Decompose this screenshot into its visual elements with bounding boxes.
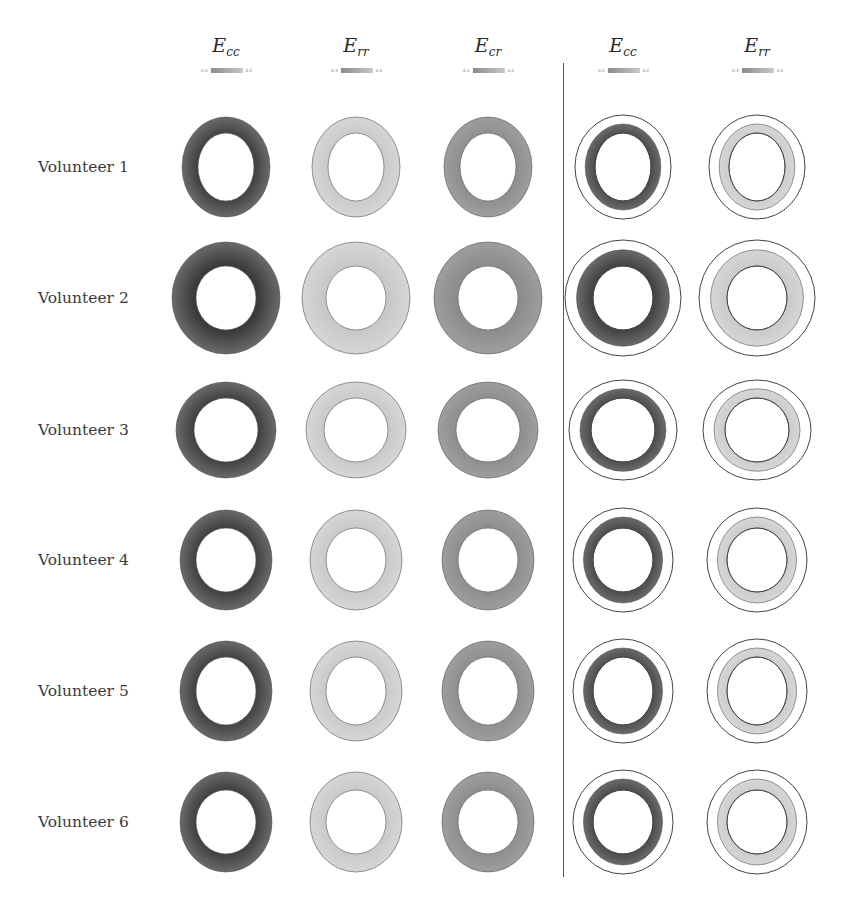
strain-map-err_mod-volunteer-5 [699, 629, 815, 753]
row-label-volunteer-2: Volunteer 2 [38, 289, 129, 307]
strain-map-err_mod-volunteer-3 [695, 370, 819, 490]
strain-map-err_hd-volunteer-6 [298, 760, 414, 884]
strain-map-ecc_hd-volunteer-2 [160, 230, 292, 366]
strain-map-ecc_mod-volunteer-6 [565, 760, 681, 884]
strain-map-err_hd-volunteer-1 [300, 105, 412, 229]
colorbar-min: -0.4 [330, 68, 338, 73]
column-header-ecc_mod: Ecc [609, 34, 636, 59]
strain-map-ecc_mod-volunteer-1 [567, 105, 679, 229]
colorbar-ecr_hd: -0.20.2 [462, 68, 514, 73]
colorbar-max: 0.4 [376, 68, 382, 73]
colorbar-min: -0.2 [462, 68, 470, 73]
colorbar-gradient [341, 68, 373, 73]
colorbar-min: -0.2 [200, 68, 208, 73]
column-header-ecr_hd: Ecr [475, 34, 501, 59]
row-label-volunteer-3: Volunteer 3 [38, 421, 129, 439]
strain-map-err_mod-volunteer-4 [699, 498, 815, 622]
colorbar-gradient [211, 68, 243, 73]
strain-map-err_hd-volunteer-3 [294, 370, 418, 490]
colorbar-err_mod: -0.40.4 [731, 68, 783, 73]
strain-map-err_mod-volunteer-1 [701, 105, 813, 229]
colorbar-max: 0.4 [777, 68, 783, 73]
strain-map-ecc_hd-volunteer-5 [168, 629, 284, 753]
strain-map-ecc_mod-volunteer-4 [565, 498, 681, 622]
row-label-volunteer-4: Volunteer 4 [38, 551, 129, 569]
colorbar-ecc_mod: -0.20.2 [597, 68, 649, 73]
strain-map-ecr_hd-volunteer-4 [430, 498, 546, 622]
colorbar-gradient [608, 68, 640, 73]
colorbar-max: 0.2 [643, 68, 649, 73]
colorbar-gradient [742, 68, 774, 73]
row-label-volunteer-1: Volunteer 1 [38, 158, 129, 176]
strain-map-ecr_hd-volunteer-6 [430, 760, 546, 884]
column-header-err_hd: Err [343, 34, 368, 59]
strain-map-err_hd-volunteer-5 [298, 629, 414, 753]
colorbar-min: -0.2 [597, 68, 605, 73]
strain-map-err_mod-volunteer-6 [699, 760, 815, 884]
colorbar-gradient [473, 68, 505, 73]
strain-map-err_mod-volunteer-2 [691, 230, 823, 366]
colorbar-ecc_hd: -0.20.2 [200, 68, 252, 73]
column-header-err_mod: Err [744, 34, 769, 59]
strain-map-err_hd-volunteer-4 [298, 498, 414, 622]
strain-map-ecc_hd-volunteer-6 [168, 760, 284, 884]
colorbar-min: -0.4 [731, 68, 739, 73]
strain-map-ecc_mod-volunteer-2 [557, 230, 689, 366]
strain-map-ecr_hd-volunteer-3 [426, 370, 550, 490]
column-header-ecc_hd: Ecc [212, 34, 239, 59]
row-label-volunteer-6: Volunteer 6 [38, 813, 129, 831]
strain-map-ecc_mod-volunteer-3 [561, 370, 685, 490]
strain-map-ecr_hd-volunteer-2 [422, 230, 554, 366]
row-label-volunteer-5: Volunteer 5 [38, 682, 129, 700]
strain-map-err_hd-volunteer-2 [290, 230, 422, 366]
strain-map-ecc_hd-volunteer-4 [168, 498, 284, 622]
strain-map-ecc_hd-volunteer-3 [164, 370, 288, 490]
strain-map-ecc_hd-volunteer-1 [170, 105, 282, 229]
strain-map-ecr_hd-volunteer-5 [430, 629, 546, 753]
strain-map-ecr_hd-volunteer-1 [432, 105, 544, 229]
strain-map-ecc_mod-volunteer-5 [565, 629, 681, 753]
colorbar-err_hd: -0.40.4 [330, 68, 382, 73]
colorbar-max: 0.2 [246, 68, 252, 73]
colorbar-max: 0.2 [508, 68, 514, 73]
